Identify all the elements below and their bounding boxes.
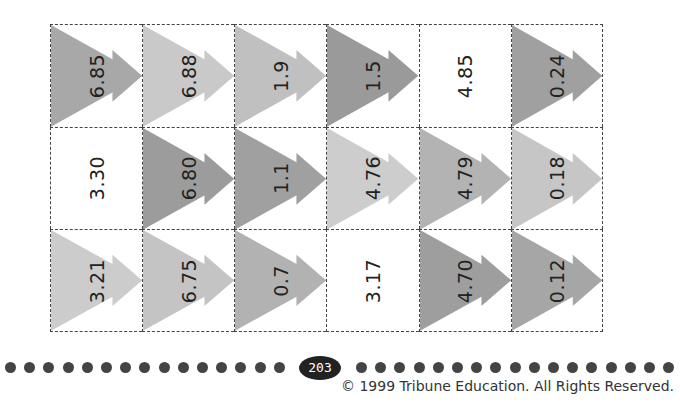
cell-value: 0.12 — [546, 259, 568, 303]
cell-value: 1.9 — [270, 60, 292, 92]
dot — [5, 362, 16, 373]
dot — [548, 362, 559, 373]
dot — [216, 362, 227, 373]
cell-value: 1.5 — [362, 60, 384, 92]
cell-value: 6.75 — [178, 259, 200, 303]
dot — [235, 362, 246, 373]
card-grid: 6.856.881.91.54.850.243.306.801.14.764.7… — [50, 24, 603, 332]
cell-value: 4.70 — [454, 259, 476, 303]
card-cell[interactable]: 0.7 — [234, 229, 326, 332]
dot — [471, 362, 482, 373]
dot — [510, 362, 521, 373]
card-cell[interactable]: 6.88 — [142, 24, 234, 127]
cell-value: 4.85 — [454, 54, 476, 98]
card-cell[interactable]: 6.85 — [50, 24, 142, 127]
dot — [433, 362, 444, 373]
card-cell[interactable]: 1.1 — [234, 127, 326, 230]
dot — [139, 362, 150, 373]
cell-value: 3.17 — [362, 259, 384, 303]
dot — [625, 362, 636, 373]
dot — [375, 362, 386, 373]
cell-value: 0.18 — [546, 156, 568, 200]
cell-value: 0.7 — [270, 265, 292, 297]
dot — [356, 362, 367, 373]
card-cell[interactable]: 0.12 — [511, 229, 603, 332]
dot — [274, 362, 285, 373]
dot — [120, 362, 131, 373]
dot — [490, 362, 501, 373]
cell-value: 1.1 — [270, 163, 292, 195]
cell-value: 4.76 — [362, 156, 384, 200]
dot — [414, 362, 425, 373]
dot — [452, 362, 463, 373]
cell-value: 3.30 — [86, 156, 108, 200]
page-number-badge: 203 — [299, 356, 341, 380]
cell-value: 6.88 — [178, 54, 200, 98]
card-cell[interactable]: 4.76 — [326, 127, 418, 230]
dot — [663, 362, 674, 373]
card-cell[interactable]: 6.80 — [142, 127, 234, 230]
dot — [606, 362, 617, 373]
dot — [644, 362, 655, 373]
dot — [43, 362, 54, 373]
cell-value: 6.80 — [178, 156, 200, 200]
dot — [101, 362, 112, 373]
copyright-text: © 1999 Tribune Education. All Rights Res… — [341, 378, 674, 394]
cell-value: 0.24 — [546, 54, 568, 98]
dot — [567, 362, 578, 373]
cell-value: 4.79 — [454, 156, 476, 200]
card-cell[interactable]: 4.85 — [419, 24, 511, 127]
dot — [63, 362, 74, 373]
card-cell[interactable]: 3.17 — [326, 229, 418, 332]
dot — [82, 362, 93, 373]
dot — [178, 362, 189, 373]
card-cell[interactable]: 4.79 — [419, 127, 511, 230]
dot — [255, 362, 266, 373]
dot — [529, 362, 540, 373]
card-cell[interactable]: 0.24 — [511, 24, 603, 127]
card-cell[interactable]: 3.30 — [50, 127, 142, 230]
card-cell[interactable]: 0.18 — [511, 127, 603, 230]
dot — [394, 362, 405, 373]
dot — [159, 362, 170, 373]
card-cell[interactable]: 6.75 — [142, 229, 234, 332]
cell-value: 3.21 — [86, 259, 108, 303]
dot — [586, 362, 597, 373]
card-cell[interactable]: 4.70 — [419, 229, 511, 332]
cell-value: 6.85 — [86, 54, 108, 98]
dot — [24, 362, 35, 373]
card-cell[interactable]: 3.21 — [50, 229, 142, 332]
card-cell[interactable]: 1.9 — [234, 24, 326, 127]
card-cell[interactable]: 1.5 — [326, 24, 418, 127]
dot — [197, 362, 208, 373]
